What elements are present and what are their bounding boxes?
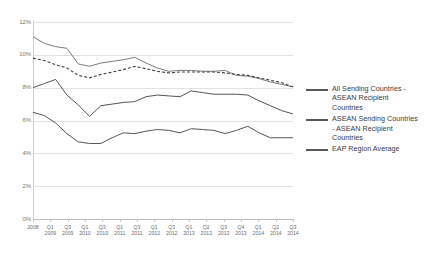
legend-item-eap-region-average[interactable]: EAP Region Average <box>306 144 444 154</box>
x-tick-mark <box>120 219 121 222</box>
legend-swatch-solid-icon <box>306 115 328 124</box>
x-tick-mark <box>276 219 277 222</box>
legend-label: EAP Region Average <box>332 144 400 153</box>
legend-label: ASEAN Sending Countries - ASEAN Recipien… <box>332 114 418 142</box>
x-tick-mark <box>50 219 51 222</box>
x-tick-mark <box>33 219 34 222</box>
legend-label-line: ASEAN Sending Countries <box>332 114 418 123</box>
legend-label-line: ASEAN Recipient <box>332 93 389 102</box>
series-line-asean-sending <box>33 79 293 116</box>
legend-label-line: Countries <box>332 103 363 112</box>
x-tick-mark <box>137 219 138 222</box>
x-tick-mark <box>172 219 173 222</box>
x-tick-mark <box>102 219 103 222</box>
x-tick-mark <box>85 219 86 222</box>
x-tick-mark <box>154 219 155 222</box>
legend-label: All Sending Countries - ASEAN Recipient … <box>332 84 406 112</box>
x-tick-label: Q32014 <box>282 224 304 237</box>
legend-item-all-sending[interactable]: All Sending Countries - ASEAN Recipient … <box>306 84 444 112</box>
x-tick-mark <box>258 219 259 222</box>
series-line-all-sending <box>33 58 293 87</box>
x-tick-year: 2014 <box>282 230 304 236</box>
legend-label-line: EAP Region Average <box>332 144 400 153</box>
legend-item-asean-sending[interactable]: ASEAN Sending Countries - ASEAN Recipien… <box>306 114 444 142</box>
x-tick-mark <box>68 219 69 222</box>
legend-label-line: - ASEAN Recipient <box>332 124 393 133</box>
chart-container: 12% 10% 8% 6% 4% 2% 0% 2008Q12009Q32009Q… <box>0 0 447 262</box>
legend-swatch-solid-icon <box>306 145 328 154</box>
x-tick-mark <box>293 219 294 222</box>
legend-swatch-solid-icon <box>306 85 328 94</box>
chart-legend: All Sending Countries - ASEAN Recipient … <box>306 84 444 156</box>
x-tick-mark <box>206 219 207 222</box>
legend-label-line: Countries <box>332 133 363 142</box>
x-tick-mark <box>241 219 242 222</box>
legend-label-line: All Sending Countries - <box>332 84 406 93</box>
x-tick-mark <box>224 219 225 222</box>
series-line-eap-region-average <box>33 37 293 87</box>
series-line-lower-unlabeled <box>33 112 293 143</box>
x-tick-mark <box>189 219 190 222</box>
